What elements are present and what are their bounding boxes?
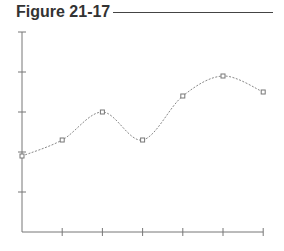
data-point-marker xyxy=(60,138,64,142)
data-point-marker xyxy=(100,110,104,114)
axes xyxy=(18,32,263,236)
data-point-marker xyxy=(181,94,185,98)
data-point-marker xyxy=(20,154,24,158)
data-curve xyxy=(22,76,263,156)
data-point-marker xyxy=(141,138,145,142)
line-chart xyxy=(0,0,284,251)
data-point-marker xyxy=(261,90,265,94)
data-markers xyxy=(20,74,265,158)
data-point-marker xyxy=(221,74,225,78)
